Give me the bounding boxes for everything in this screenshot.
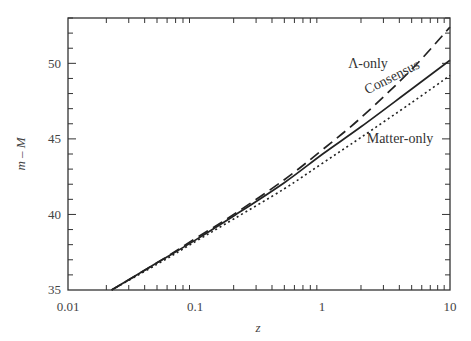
y-axis-title: m – M xyxy=(13,136,28,170)
y-tick-label: 50 xyxy=(48,56,61,71)
y-tick-label: 35 xyxy=(48,282,61,297)
matteronly-curve xyxy=(112,75,450,290)
consensus-curve xyxy=(112,60,450,290)
lambda-only-label: Λ-only xyxy=(348,56,388,71)
matter-only-label: Matter-only xyxy=(367,131,434,146)
y-tick-label: 45 xyxy=(48,131,61,146)
plot-frame xyxy=(68,18,450,290)
chart: 0.01 0.1 1 10 35 40 45 50 z m – M Λ-only… xyxy=(0,0,471,341)
x-tick-label: 1 xyxy=(319,299,326,314)
x-axis-title: z xyxy=(254,320,260,335)
x-tick-label: 0.1 xyxy=(187,299,203,314)
y-tick-label: 40 xyxy=(48,207,61,222)
tick-marks xyxy=(68,18,450,290)
x-tick-label: 0.01 xyxy=(57,299,80,314)
x-tick-label: 10 xyxy=(444,299,457,314)
